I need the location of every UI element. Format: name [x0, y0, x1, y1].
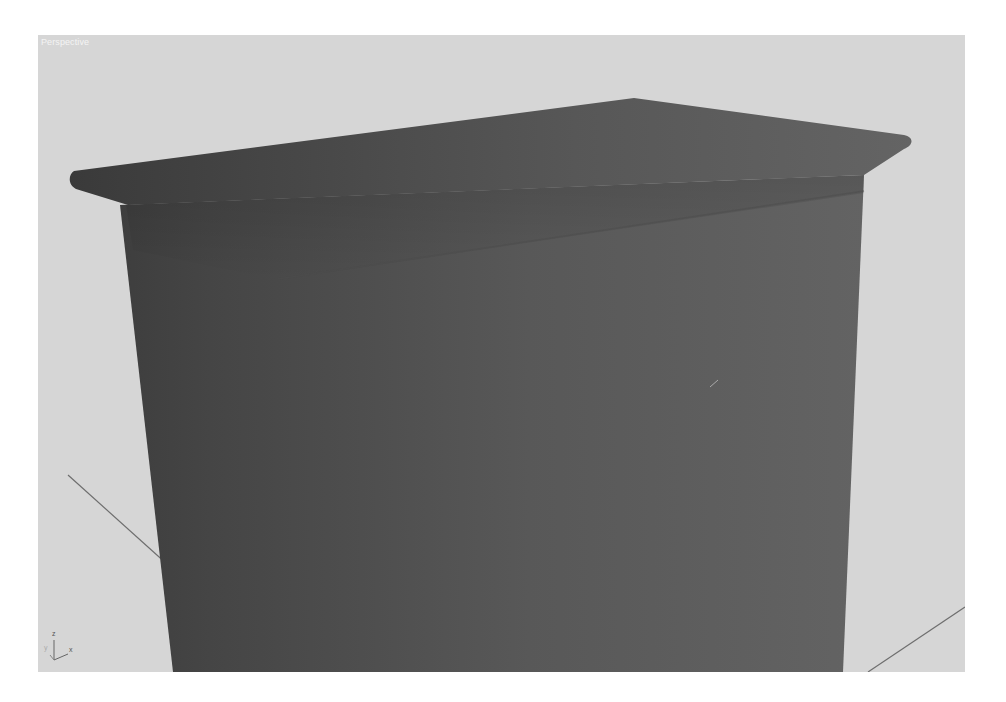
axis-gizmo: z x y [44, 624, 80, 664]
scene-canvas[interactable] [38, 35, 965, 672]
grid-line-right [868, 607, 965, 672]
axis-y-label: y [44, 644, 48, 651]
axis-z-label: z [52, 630, 56, 637]
axis-x-label: x [69, 646, 73, 653]
axis-tripod-icon [44, 624, 80, 664]
viewport-label[interactable]: Perspective [41, 37, 89, 47]
perspective-viewport[interactable]: Perspective z x y [38, 35, 965, 672]
